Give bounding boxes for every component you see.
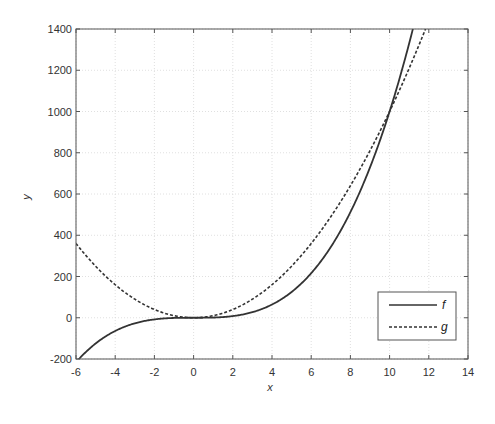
y-tick-label: 1200: [48, 64, 72, 76]
y-tick-label: 1000: [48, 106, 72, 118]
x-tick-label: -2: [150, 366, 160, 378]
chart: -6-4-202468101214 -200020040060080010001…: [0, 0, 495, 424]
x-tick-label: 14: [462, 366, 474, 378]
x-tick-label: -6: [71, 366, 81, 378]
y-axis-label: y: [20, 193, 32, 201]
x-tick-label: 2: [230, 366, 236, 378]
y-tick-label: 400: [54, 229, 72, 241]
x-tick-labels: -6-4-202468101214: [71, 366, 474, 378]
y-tick-label: 800: [54, 147, 72, 159]
y-tick-label: 1400: [48, 23, 72, 35]
legend: f g: [378, 292, 456, 340]
y-tick-label: 200: [54, 271, 72, 283]
x-tick-label: 4: [269, 366, 275, 378]
x-tick-label: 6: [308, 366, 314, 378]
y-tick-label: 600: [54, 188, 72, 200]
y-tick-labels: -2000200400600800100012001400: [48, 23, 72, 365]
x-tick-label: -4: [110, 366, 120, 378]
x-tick-label: 12: [423, 366, 435, 378]
x-axis-label: x: [266, 381, 273, 393]
x-tick-label: 10: [383, 366, 395, 378]
x-tick-label: 8: [347, 366, 353, 378]
x-tick-label: 0: [191, 366, 197, 378]
y-tick-label: 0: [66, 312, 72, 324]
y-tick-label: -200: [50, 353, 72, 365]
legend-label-g: g: [441, 320, 448, 334]
